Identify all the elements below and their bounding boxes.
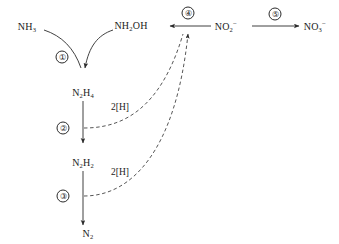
species-label-nitrite: NO2−	[215, 21, 237, 32]
species-label-hydroxylamine: NH2OH	[114, 20, 147, 31]
species-label-ammonia: NH3	[18, 21, 36, 32]
dashed-curve-lower-reductant	[84, 34, 188, 196]
step-marker-2: ②	[57, 122, 70, 135]
cofactor-label-upper: 2[H]	[111, 102, 129, 112]
step-marker-1: ①	[56, 51, 69, 64]
diagram-canvas: NH3 NH2OH N2H4 N2H2 N2 NO2− NO3− 2[H] 2[…	[0, 0, 339, 244]
step-marker-4: ④	[182, 7, 195, 20]
arrow-hydroxylamine-to-hydrazine	[85, 30, 113, 68]
species-label-diimide: N2H2	[72, 157, 94, 168]
species-label-dinitrogen: N2	[83, 228, 94, 239]
dashed-curve-upper-reductant	[84, 34, 183, 128]
species-label-hydrazine: N2H4	[72, 87, 94, 98]
species-label-nitrate: NO3−	[304, 21, 326, 32]
step-marker-5: ⑤	[269, 8, 282, 21]
step-marker-3: ③	[57, 190, 70, 203]
pathway-graphic	[0, 0, 339, 244]
cofactor-label-lower: 2[H]	[111, 167, 129, 177]
